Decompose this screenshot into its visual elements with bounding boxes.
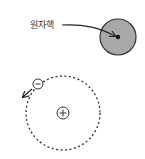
electron-motion-arrow — [23, 89, 32, 97]
nucleus-zoom — [100, 19, 136, 55]
electron-icon — [33, 79, 43, 89]
atom-diagram — [0, 0, 145, 159]
proton-icon — [57, 107, 69, 119]
